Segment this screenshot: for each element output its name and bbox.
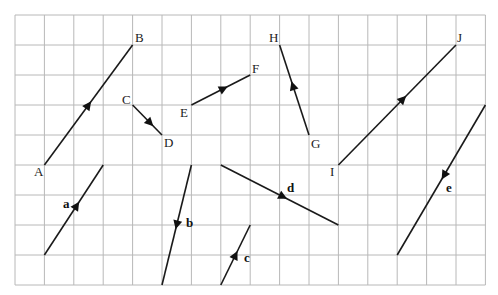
- point-label-B: B: [135, 30, 144, 45]
- vector-GH: GH: [269, 30, 320, 151]
- grid: [15, 15, 485, 285]
- vector-label-d: d: [287, 180, 295, 195]
- arrow-head-icon: [290, 81, 299, 91]
- point-label-H: H: [269, 30, 278, 45]
- arrow-head-icon: [71, 202, 80, 212]
- arrow-head-icon: [173, 220, 182, 230]
- vector-line: [397, 105, 485, 255]
- arrow-head-icon: [82, 101, 91, 111]
- vector-grid-diagram: ABCDEFGHIJ abcde: [0, 0, 498, 295]
- vector-line: [280, 45, 309, 135]
- point-label-F: F: [252, 61, 259, 76]
- vector-label-b: b: [186, 215, 193, 230]
- vector-label-c: c: [244, 250, 250, 265]
- point-label-G: G: [311, 136, 320, 151]
- point-label-C: C: [122, 92, 131, 107]
- point-label-D: D: [164, 135, 173, 150]
- point-label-J: J: [457, 30, 462, 45]
- vector-label-a: a: [63, 196, 70, 211]
- point-label-E: E: [180, 105, 188, 120]
- vector-e: e: [397, 105, 485, 255]
- vector-label-e: e: [446, 180, 452, 195]
- point-label-I: I: [330, 164, 334, 179]
- point-label-A: A: [34, 164, 44, 179]
- vector-CD: CD: [122, 92, 173, 150]
